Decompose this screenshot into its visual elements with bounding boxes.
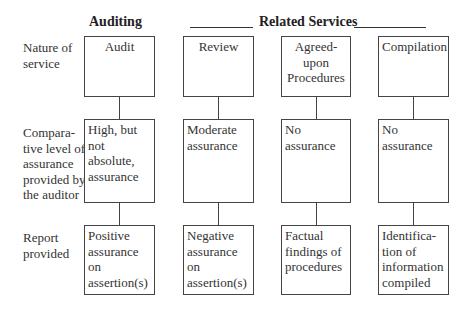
row-label-line: Compara-: [23, 125, 85, 141]
box-text: No: [382, 122, 445, 138]
box-text: procedures: [285, 259, 347, 275]
box-text: absolute,: [88, 153, 151, 169]
row-label-line: service: [23, 56, 72, 72]
connector: [218, 97, 219, 119]
row-label-line: provided by: [23, 172, 85, 188]
header-rule-left: [190, 27, 253, 28]
row-label-level-of-assurance: Compara- tive level of assurance provide…: [23, 125, 85, 203]
row-label-line: Report: [23, 230, 69, 246]
box-text: Audit: [88, 39, 151, 55]
box-agreed-upon-nature: Agreed- upon Procedures: [281, 36, 351, 97]
box-audit-report: Positive assurance on assertion(s): [84, 225, 155, 295]
box-text: No: [285, 122, 347, 138]
box-text: Procedures: [285, 70, 347, 86]
row-label-report-provided: Report provided: [23, 230, 69, 261]
box-audit-assurance: High, but not absolute, assurance: [84, 119, 155, 203]
box-text: assurance: [285, 138, 347, 154]
box-text: Agreed-: [285, 39, 347, 55]
row-label-nature-of-service: Nature of service: [23, 40, 72, 71]
row-label-line: the auditor: [23, 187, 85, 203]
header-related-services: Related Services: [259, 14, 357, 30]
box-audit-nature: Audit: [84, 36, 155, 97]
box-text: assertion(s): [187, 275, 250, 291]
connector: [119, 97, 120, 119]
box-text: Negative: [187, 228, 250, 244]
box-text: assurance: [382, 138, 445, 154]
row-label-line: provided: [23, 246, 69, 262]
box-text: Compilation: [382, 39, 445, 55]
box-text: tion of: [382, 244, 445, 260]
box-text: compiled: [382, 275, 445, 291]
connector: [413, 97, 414, 119]
box-text: upon: [285, 55, 347, 71]
row-label-line: Nature of: [23, 40, 72, 56]
box-agreed-upon-assurance: No assurance: [281, 119, 351, 203]
connector: [316, 97, 317, 119]
box-text: Identifica-: [382, 228, 445, 244]
box-review-assurance: Moderate assurance: [183, 119, 254, 203]
box-text: Factual: [285, 228, 347, 244]
connector: [218, 203, 219, 225]
box-text: assurance on: [88, 244, 151, 275]
box-compilation-nature: Compilation: [378, 36, 449, 97]
header-rule-right: [354, 27, 426, 28]
box-text: Moderate: [187, 122, 250, 138]
box-text: assurance on: [187, 244, 250, 275]
box-text: assertion(s): [88, 275, 151, 291]
connector: [119, 203, 120, 225]
connector: [316, 203, 317, 225]
header-auditing: Auditing: [89, 14, 142, 30]
box-text: assurance: [88, 169, 151, 185]
box-text: information: [382, 259, 445, 275]
box-compilation-report: Identifica- tion of information compiled: [378, 225, 449, 295]
row-label-line: tive level of: [23, 141, 85, 157]
box-review-report: Negative assurance on assertion(s): [183, 225, 254, 295]
box-text: findings of: [285, 244, 347, 260]
box-agreed-upon-report: Factual findings of procedures: [281, 225, 351, 295]
box-text: Positive: [88, 228, 151, 244]
box-compilation-assurance: No assurance: [378, 119, 449, 203]
box-text: assurance: [187, 138, 250, 154]
box-review-nature: Review: [183, 36, 254, 97]
connector: [413, 203, 414, 225]
box-text: High, but not: [88, 122, 151, 153]
row-label-line: assurance: [23, 156, 85, 172]
box-text: Review: [187, 39, 250, 55]
